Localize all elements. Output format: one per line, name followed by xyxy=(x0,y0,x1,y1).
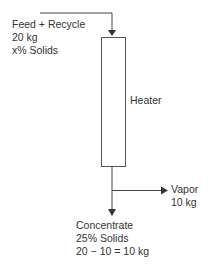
vapor-stream xyxy=(112,187,168,195)
concentrate-mass: 20 − 10 = 10 kg xyxy=(76,245,149,258)
feed-mass: 20 kg xyxy=(12,31,85,44)
arrow-down-icon xyxy=(108,209,116,216)
arrow-down-icon xyxy=(108,30,116,36)
concentrate-name: Concentrate xyxy=(76,219,149,232)
vapor-name: Vapor xyxy=(171,183,198,196)
concentrate-label: Concentrate 25% Solids 20 − 10 = 10 kg xyxy=(76,219,149,258)
heater-box xyxy=(102,38,126,167)
arrow-right-icon xyxy=(161,187,168,195)
feed-solids: x% Solids xyxy=(12,44,85,57)
feed-name: Feed + Recycle xyxy=(12,18,85,31)
concentrate-stream xyxy=(108,167,116,216)
vapor-label: Vapor 10 kg xyxy=(171,183,198,209)
concentrate-solids: 25% Solids xyxy=(76,232,149,245)
feed-label: Feed + Recycle 20 kg x% Solids xyxy=(12,18,85,57)
heater-label: Heater xyxy=(130,94,162,107)
vapor-mass: 10 kg xyxy=(171,196,198,209)
